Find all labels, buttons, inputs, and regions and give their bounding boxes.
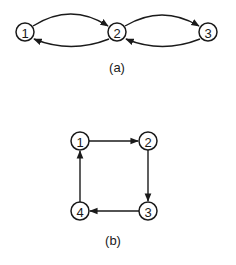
edge-a-2-to-3 <box>125 15 199 26</box>
diagram-canvas: 1 2 3 (a) 1 2 3 4 <box>0 0 236 265</box>
node-a1: 1 <box>16 23 34 41</box>
caption-a: (a) <box>109 60 125 75</box>
node-b2: 2 <box>139 132 157 150</box>
node-a1-label: 1 <box>21 26 28 41</box>
diagram-a: 1 2 3 (a) <box>16 14 217 75</box>
node-b1-label: 1 <box>76 135 83 150</box>
node-b4-label: 4 <box>76 205 83 220</box>
node-a2: 2 <box>108 23 126 41</box>
node-b2-label: 2 <box>144 135 151 150</box>
node-b3: 3 <box>139 202 157 220</box>
node-a3: 3 <box>199 23 217 41</box>
edge-a-3-to-2 <box>126 39 200 47</box>
node-a2-label: 2 <box>113 26 120 41</box>
node-b1: 1 <box>71 132 89 150</box>
edge-a-2-to-1 <box>34 39 109 47</box>
caption-b: (b) <box>105 233 121 248</box>
edge-a-1-to-2 <box>33 14 108 26</box>
node-b4: 4 <box>71 202 89 220</box>
diagram-b: 1 2 3 4 (b) <box>71 132 157 248</box>
node-b3-label: 3 <box>144 205 151 220</box>
node-a3-label: 3 <box>204 26 211 41</box>
